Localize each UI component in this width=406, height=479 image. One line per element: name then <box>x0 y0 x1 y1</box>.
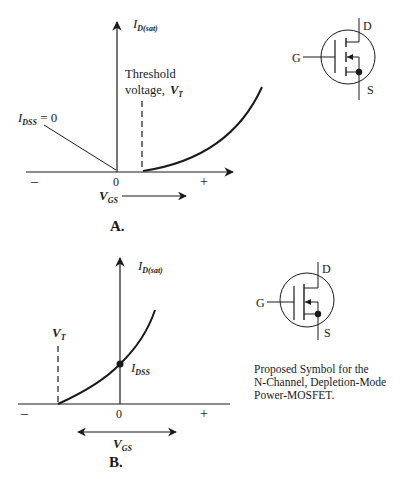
mosfet-symbol-enhancement: G D S <box>292 18 375 100</box>
symbol-a-drain-label: D <box>363 19 372 33</box>
symbol-a-junction-dot <box>356 69 362 75</box>
graph-b: ID(sat) VT IDSS – 0 + VGS B. <box>18 258 230 470</box>
graph-a-tick-zero: 0 <box>113 175 119 189</box>
graph-b-vt-label: VT <box>52 325 67 342</box>
symbol-a-source-label: S <box>367 83 374 97</box>
graph-a-y-axis-label: ID(sat) <box>132 16 158 33</box>
mosfet-symbol-depletion: G D S <box>256 262 334 340</box>
symbol-b-body-circle <box>280 273 334 327</box>
graph-b-tick-plus: + <box>200 406 208 421</box>
symbol-b-body-arrow-icon <box>305 299 311 305</box>
graph-a-transfer-curve <box>143 87 262 171</box>
graph-a-x-axis-label: VGS <box>99 188 118 205</box>
symbol-b-drain-label: D <box>322 262 331 276</box>
symbol-a-body-arrow-icon <box>347 54 353 60</box>
graph-a-tick-plus: + <box>200 174 208 189</box>
graph-a-idss-leader-line <box>44 125 116 170</box>
caption-line-2: N-Channel, Depletion-Mode <box>254 376 404 389</box>
graph-b-panel-label: B. <box>109 454 123 470</box>
graph-b-tick-zero: 0 <box>116 407 122 421</box>
graph-a-tick-minus: – <box>30 174 39 189</box>
graph-b-tick-minus: – <box>20 406 29 421</box>
symbol-b-source-label: S <box>324 326 331 340</box>
graph-a: ID(sat) Threshold voltage,VT IDSS = 0 – … <box>17 16 262 234</box>
graph-a-threshold-label-line1: Threshold <box>125 67 176 81</box>
graph-b-y-axis-label: ID(sat) <box>137 258 163 275</box>
graph-b-x-axis-label: VGS <box>113 436 132 453</box>
graph-a-panel-label: A. <box>110 218 125 234</box>
symbol-b-junction-dot <box>315 311 321 317</box>
graph-b-idss-point <box>117 361 124 368</box>
graph-a-threshold-label-line2: voltage,VT <box>125 83 183 99</box>
graph-b-idss-label: IDSS <box>130 360 151 377</box>
graph-a-idss-label: IDSS = 0 <box>17 110 57 127</box>
symbol-b-gate-label: G <box>256 296 265 310</box>
symbol-a-gate-label: G <box>292 51 301 65</box>
caption-line-3: Power-MOSFET. <box>254 389 404 402</box>
diagram-canvas: ID(sat) Threshold voltage,VT IDSS = 0 – … <box>0 0 406 479</box>
symbol-caption: Proposed Symbol for the N-Channel, Deple… <box>254 363 404 402</box>
caption-line-1: Proposed Symbol for the <box>254 363 404 376</box>
graph-b-transfer-curve <box>58 310 155 404</box>
